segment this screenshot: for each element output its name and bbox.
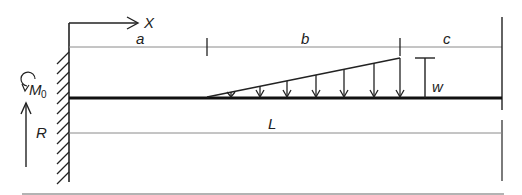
dimension-label-a: a	[136, 30, 144, 47]
dimension-line-abc	[69, 38, 502, 56]
reaction-force-arrow	[21, 103, 31, 167]
moment-subscript: 0	[41, 89, 47, 100]
x-axis-label: X	[143, 14, 155, 31]
reaction-force-label: R	[36, 124, 47, 141]
x-axis-arrow	[69, 17, 138, 29]
beam-diagram: X a b c w L M	[0, 0, 522, 195]
dimension-label-b: b	[301, 30, 309, 47]
fixed-wall-support	[57, 23, 69, 184]
dimension-label-c: c	[443, 30, 451, 47]
load-label-w: w	[432, 78, 444, 95]
distributed-load	[207, 58, 404, 97]
load-arrows	[227, 58, 404, 97]
dimension-label-L: L	[268, 115, 276, 132]
